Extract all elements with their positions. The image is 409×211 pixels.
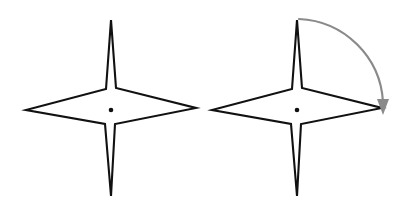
left-star-center-dot xyxy=(109,108,114,113)
star-rotation-diagram xyxy=(0,0,409,211)
figure-root xyxy=(0,0,409,211)
right-star-center-dot xyxy=(295,108,300,113)
